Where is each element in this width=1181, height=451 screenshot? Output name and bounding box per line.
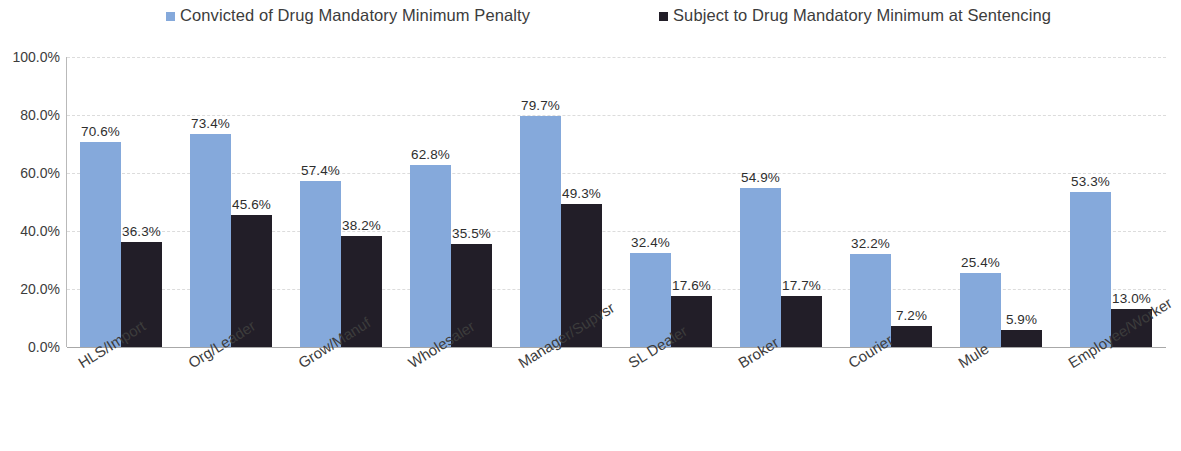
bar[interactable]: 73.4%: [190, 134, 231, 347]
y-axis-tick-label: 20.0%: [20, 281, 60, 297]
bar-value-label: 35.5%: [452, 226, 491, 241]
y-axis-tick-label: 100.0%: [13, 49, 60, 65]
bar-value-label: 5.9%: [1006, 312, 1037, 327]
bar-value-label: 36.3%: [122, 224, 161, 239]
grouped-bar-chart: Convicted of Drug Mandatory Minimum Pena…: [0, 0, 1181, 451]
bar[interactable]: 57.4%: [300, 181, 341, 347]
bar-value-label: 38.2%: [342, 218, 381, 233]
bar-value-label: 53.3%: [1071, 174, 1110, 189]
bar[interactable]: 62.8%: [410, 165, 451, 347]
y-axis-tick-label: 60.0%: [20, 165, 60, 181]
bar-value-label: 57.4%: [301, 163, 340, 178]
legend-swatch-square-marker-blue: [166, 12, 175, 21]
legend-swatch-square-marker-dark: [659, 12, 668, 21]
bar-value-label: 45.6%: [232, 197, 271, 212]
bar-value-label: 32.2%: [851, 236, 890, 251]
bar-value-label: 25.4%: [961, 255, 1000, 270]
bar[interactable]: 54.9%: [740, 188, 781, 347]
bar-value-label: 7.2%: [896, 308, 927, 323]
bar-value-label: 49.3%: [562, 186, 601, 201]
bar[interactable]: 17.7%: [781, 296, 822, 347]
y-axis-tick-label: 0.0%: [28, 339, 60, 355]
bar[interactable]: 70.6%: [80, 142, 121, 347]
bar-group: 32.4%17.6%: [630, 57, 712, 347]
bar-value-label: 54.9%: [741, 170, 780, 185]
y-axis-tick-label: 40.0%: [20, 223, 60, 239]
y-axis-tick-label: 80.0%: [20, 107, 60, 123]
bar-group: 53.3%13.0%: [1070, 57, 1152, 347]
bar-group: 32.2%7.2%: [850, 57, 932, 347]
bar-group: 54.9%17.7%: [740, 57, 822, 347]
bar-group: 57.4%38.2%: [300, 57, 382, 347]
legend-item-subject[interactable]: Subject to Drug Mandatory Minimum at Sen…: [659, 6, 1051, 25]
bar[interactable]: 7.2%: [891, 326, 932, 347]
bar-value-label: 70.6%: [81, 124, 120, 139]
bar-group: 25.4%5.9%: [960, 57, 1042, 347]
bar-value-label: 73.4%: [191, 116, 230, 131]
bar-value-label: 32.4%: [631, 235, 670, 250]
bar[interactable]: 25.4%: [960, 273, 1001, 347]
legend-label-subject: Subject to Drug Mandatory Minimum at Sen…: [673, 6, 1051, 25]
bar-value-label: 79.7%: [521, 98, 560, 113]
bar-group: 70.6%36.3%: [80, 57, 162, 347]
bar-group: 62.8%35.5%: [410, 57, 492, 347]
bar-value-label: 13.0%: [1112, 291, 1151, 306]
x-axis: HLS/ImportOrg/LeaderGrow/ManufWholesaler…: [66, 347, 1166, 451]
bar-group: 73.4%45.6%: [190, 57, 272, 347]
bars-layer: 70.6%36.3%73.4%45.6%57.4%38.2%62.8%35.5%…: [66, 57, 1166, 347]
bar-group: 79.7%49.3%: [520, 57, 602, 347]
chart-legend: Convicted of Drug Mandatory Minimum Pena…: [0, 4, 1181, 32]
legend-label-convicted: Convicted of Drug Mandatory Minimum Pena…: [180, 6, 530, 25]
y-axis: 100.0%80.0%60.0%40.0%20.0%0.0%: [0, 57, 60, 347]
bar-value-label: 17.7%: [782, 278, 821, 293]
bar-value-label: 62.8%: [411, 147, 450, 162]
bar[interactable]: 5.9%: [1001, 330, 1042, 347]
bar[interactable]: 79.7%: [520, 116, 561, 347]
legend-item-convicted[interactable]: Convicted of Drug Mandatory Minimum Pena…: [166, 6, 530, 25]
bar[interactable]: 53.3%: [1070, 192, 1111, 347]
bar-value-label: 17.6%: [672, 278, 711, 293]
